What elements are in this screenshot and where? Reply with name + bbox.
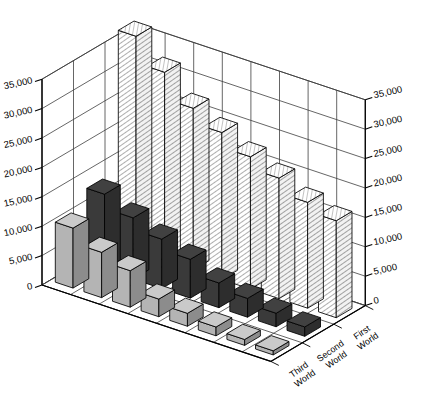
left-axis-tick-label: 25,000 (3, 133, 34, 150)
bar-face-side (162, 230, 178, 289)
axis-tick-left (35, 256, 42, 258)
bar-face-side (250, 147, 266, 289)
right-axis-tick-label: 5,000 (372, 261, 398, 277)
bar-chart-3d: 05,00010,00015,00020,00025,00030,00035,0… (0, 0, 429, 396)
depth-axis-label: ThirdWorld (286, 359, 317, 389)
bar-face-front (55, 222, 73, 288)
right-axis-tick-label: 30,000 (372, 113, 403, 130)
chart-container: 05,00010,00015,00020,00025,00030,00035,0… (0, 0, 429, 396)
right-axis-tick-label: 15,000 (372, 201, 403, 218)
depth-tick (302, 343, 310, 347)
axis-tick-left (35, 285, 42, 287)
right-axis-tick-label: 25,000 (372, 142, 403, 159)
right-axis-tick-label: 0 (372, 294, 379, 306)
axis-tick-left (35, 138, 42, 140)
axis-tick-left (35, 79, 42, 81)
axis-tick-right (365, 303, 372, 305)
left-axis-tick-label: 10,000 (3, 221, 34, 238)
depth-tick (334, 324, 342, 328)
axis-tick-left (35, 167, 42, 169)
right-axis-tick-label: 35,000 (372, 83, 403, 100)
axis-tick-right (365, 156, 372, 158)
bar-face-side (336, 211, 352, 317)
left-axis-tick-label: 35,000 (3, 74, 34, 91)
left-axis-labels: 05,00010,00015,00020,00025,00030,00035,0… (3, 74, 34, 292)
axis-tick-right (365, 215, 372, 217)
bar-face-side (73, 219, 89, 288)
left-axis-tick-label: 20,000 (3, 163, 34, 180)
axis-tick-left (35, 226, 42, 228)
axis-tick-left (35, 197, 42, 199)
left-axis-tick-label: 15,000 (3, 192, 34, 209)
axis-tick-right (365, 127, 372, 129)
bar-face-side (222, 123, 238, 279)
axis-tick-left (35, 109, 42, 111)
right-axis-tick-label: 20,000 (372, 172, 403, 189)
left-axis-tick-label: 30,000 (3, 104, 34, 121)
depth-tick (365, 306, 373, 310)
bar-face-side (279, 169, 295, 299)
axis-tick-right (365, 97, 372, 99)
axis-tick-right (365, 244, 372, 246)
bar-face-side (193, 99, 209, 270)
left-axis-tick-label: 0 (26, 280, 33, 292)
right-axis-labels: 05,00010,00015,00020,00025,00030,00035,0… (372, 83, 403, 306)
bar-face-side (308, 193, 324, 308)
depth-tick (271, 361, 279, 365)
left-axis-tick-label: 5,000 (8, 251, 34, 267)
axis-tick-right (365, 186, 372, 188)
depth-axis-label: FirstWorld (349, 322, 380, 352)
axis-tick-right (365, 274, 372, 276)
right-axis-tick-label: 10,000 (372, 230, 403, 247)
depth-axis-label: SecondWorld (315, 338, 352, 372)
